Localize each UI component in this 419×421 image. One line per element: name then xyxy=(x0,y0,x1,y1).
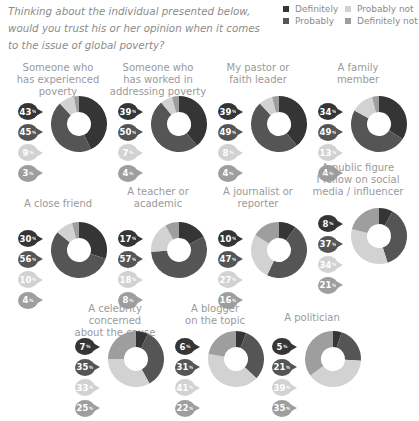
panel-title-line: has worked in xyxy=(108,74,208,86)
value-badge-probably: 57% xyxy=(118,251,138,268)
percent-sign: % xyxy=(232,298,237,303)
value-badges: 30%56%10%4% xyxy=(18,230,44,312)
value-badge-probably-not: 41% xyxy=(175,379,195,396)
percent-sign: % xyxy=(189,385,194,390)
donut-panel: Someone whohas experiencedpoverty43%45%9… xyxy=(8,62,108,182)
panel-title: A close friend xyxy=(8,198,108,210)
badge-value: 4 xyxy=(123,168,129,178)
donut-chart xyxy=(49,94,109,154)
percent-sign: % xyxy=(132,109,137,114)
badge-value: 34 xyxy=(320,107,332,117)
percent-sign: % xyxy=(332,150,337,155)
panel-title: A familymember xyxy=(308,62,408,86)
donut-chart xyxy=(106,329,166,389)
percent-sign: % xyxy=(232,257,237,262)
legend: Definitely Probably not Probably Definit… xyxy=(283,3,419,27)
percent-sign: % xyxy=(232,109,237,114)
panel-title-line: A teacher or xyxy=(108,186,208,198)
question-text: Thinking about the individual presented … xyxy=(8,3,268,54)
percent-sign: % xyxy=(232,236,237,241)
value-badge-probably: 45% xyxy=(18,124,38,141)
value-badge-definitely: 43% xyxy=(18,103,38,120)
panel-title: A teacher oracademic xyxy=(108,186,208,210)
value-badge-definitely: 8% xyxy=(318,215,338,232)
badge-value: 25 xyxy=(77,403,89,413)
percent-sign: % xyxy=(32,257,37,262)
percent-sign: % xyxy=(32,236,37,241)
panel-title-line: A politician xyxy=(262,312,362,324)
badge-value: 56 xyxy=(20,254,32,264)
percent-sign: % xyxy=(132,236,137,241)
percent-sign: % xyxy=(129,171,134,176)
panel-title-line: A celebrity concerned xyxy=(65,303,165,327)
panel-title-line: member xyxy=(308,74,408,86)
value-badge-probably: 21% xyxy=(272,359,292,376)
value-badge-probably: 56% xyxy=(18,251,38,268)
value-badge-definitely-not: 4% xyxy=(118,165,138,182)
panel-title-line: A public figure xyxy=(308,162,408,174)
badge-value: 31 xyxy=(177,362,189,372)
panel-title-line: I follow on social xyxy=(308,174,408,186)
badge-value: 10 xyxy=(220,234,232,244)
badge-value: 43 xyxy=(20,107,32,117)
legend-item-definitely-not: Definitely not xyxy=(345,15,419,27)
badge-value: 21 xyxy=(320,280,332,290)
percent-sign: % xyxy=(332,242,337,247)
legend-label: Definitely not xyxy=(357,16,418,26)
badge-value: 7 xyxy=(80,342,86,352)
percent-sign: % xyxy=(232,130,237,135)
donut-panel: Someone whohas worked inaddressing pover… xyxy=(108,62,208,182)
value-badge-probably: 37% xyxy=(318,236,338,253)
value-badge-probably: 49% xyxy=(218,124,238,141)
value-badge-definitely-not: 25% xyxy=(75,400,95,417)
donut-chart xyxy=(49,220,109,280)
percent-sign: % xyxy=(89,365,94,370)
percent-sign: % xyxy=(229,150,234,155)
value-badge-definitely: 30% xyxy=(18,230,38,247)
panel-title: My pastor orfaith leader xyxy=(208,62,308,86)
badge-value: 8 xyxy=(323,219,329,229)
value-badge-probably-not: 34% xyxy=(318,256,338,273)
donut-slice-definitely-not xyxy=(305,331,333,375)
donut-slice-definitely xyxy=(379,96,407,139)
percent-sign: % xyxy=(32,130,37,135)
panel-title-line: academic xyxy=(108,198,208,210)
panel-title: A journalist orreporter xyxy=(208,186,308,210)
value-badge-probably-not: 8% xyxy=(218,144,238,161)
badge-value: 57 xyxy=(120,254,132,264)
panel-title-line: My pastor or xyxy=(208,62,308,74)
donut-panel: A close friend30%56%10%4% xyxy=(8,198,108,318)
panel-title: A bloggeron the topic xyxy=(165,303,265,327)
percent-sign: % xyxy=(232,277,237,282)
value-badge-definitely: 17% xyxy=(118,230,138,247)
percent-sign: % xyxy=(332,262,337,267)
donut-chart xyxy=(149,94,209,154)
percent-sign: % xyxy=(32,277,37,282)
donut-panel: A teacher oracademic17%57%18%8% xyxy=(108,186,208,306)
value-badges: 39%50%7%4% xyxy=(118,103,144,185)
value-badge-probably: 35% xyxy=(75,359,95,376)
percent-sign: % xyxy=(332,109,337,114)
percent-sign: % xyxy=(286,385,291,390)
donut-slice-definitely-not xyxy=(208,331,236,357)
badge-value: 7 xyxy=(123,148,129,158)
value-badges: 7%35%33%25% xyxy=(75,338,101,420)
legend-item-probably: Probably xyxy=(283,15,345,27)
badge-value: 27 xyxy=(220,275,232,285)
badge-value: 3 xyxy=(23,168,29,178)
legend-item-definitely: Definitely xyxy=(283,3,345,15)
badge-value: 4 xyxy=(223,168,229,178)
percent-sign: % xyxy=(189,365,194,370)
panel-title-line: on the topic xyxy=(165,315,265,327)
donut-chart xyxy=(349,94,409,154)
panel-title: A public figureI follow on socialmedia /… xyxy=(308,162,408,198)
value-badge-definitely-not: 35% xyxy=(272,400,292,417)
value-badge-definitely-not: 4% xyxy=(18,292,38,309)
badge-value: 21 xyxy=(274,362,286,372)
legend-swatch-icon xyxy=(345,18,351,24)
value-badges: 8%37%34%21% xyxy=(318,215,344,297)
panel-title: A politician xyxy=(262,312,362,324)
value-badge-probably: 49% xyxy=(318,124,338,141)
badge-value: 4 xyxy=(23,295,29,305)
donut-chart xyxy=(303,329,363,389)
